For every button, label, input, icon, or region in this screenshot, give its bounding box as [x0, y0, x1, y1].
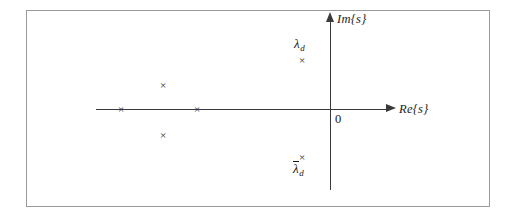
lambda-d-conjugate-label: λd	[293, 161, 304, 178]
pole-marker-x: ×	[156, 128, 170, 142]
pole-marker-x: ×	[114, 102, 128, 116]
desired-pole-marker-x: ×	[295, 53, 309, 67]
lambda-d-base: λ	[294, 36, 300, 51]
imaginary-axis-line	[330, 18, 331, 190]
real-axis-label: Re{s}	[399, 102, 429, 117]
imaginary-axis-arrowhead-icon	[326, 12, 334, 22]
lambda-d-conjugate-subscript: d	[299, 168, 304, 178]
lambda-d-label: λd	[294, 36, 305, 53]
lambda-d-subscript: d	[300, 43, 305, 53]
pole-marker-x: ×	[190, 102, 204, 116]
origin-label: 0	[335, 112, 341, 127]
real-axis-line	[96, 109, 390, 110]
real-axis-arrowhead-icon	[386, 104, 396, 112]
lambda-d-conjugate-base: λ	[293, 161, 299, 176]
pole-marker-x: ×	[156, 78, 170, 92]
pole-zero-figure: Re{s} Im{s} 0 × × × × × × λd λd	[0, 0, 515, 217]
imaginary-axis-label: Im{s}	[337, 12, 367, 27]
